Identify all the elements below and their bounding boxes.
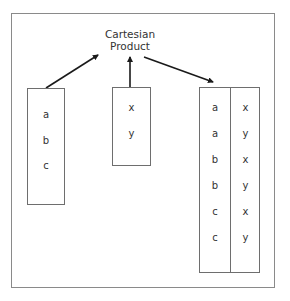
result-right-item: x [231, 206, 260, 218]
result-left-column: a a b b c c [200, 88, 231, 272]
set-b-box: x y [112, 87, 151, 166]
set-a-box: a b c [27, 88, 65, 205]
result-left-item: c [200, 232, 230, 244]
result-box: a a b b c c x y x y x y [199, 87, 260, 273]
set-b-item: x [113, 102, 150, 114]
result-right-item: x [231, 154, 260, 166]
arrow-set-a-to-product [46, 55, 98, 88]
result-left-item: b [200, 154, 230, 166]
result-right-item: y [231, 180, 260, 192]
result-left-item: a [200, 128, 230, 140]
result-right-item: y [231, 232, 260, 244]
result-right-item: x [231, 102, 260, 114]
set-b-item: y [113, 128, 150, 140]
result-left-item: b [200, 180, 230, 192]
set-a-item: b [28, 135, 64, 147]
result-right-column: x y x y x y [231, 88, 260, 272]
result-left-item: a [200, 102, 230, 114]
arrow-product-to-result [144, 57, 213, 82]
result-left-item: c [200, 206, 230, 218]
set-a-item: a [28, 109, 64, 121]
result-right-item: y [231, 128, 260, 140]
set-a-item: c [28, 160, 64, 172]
